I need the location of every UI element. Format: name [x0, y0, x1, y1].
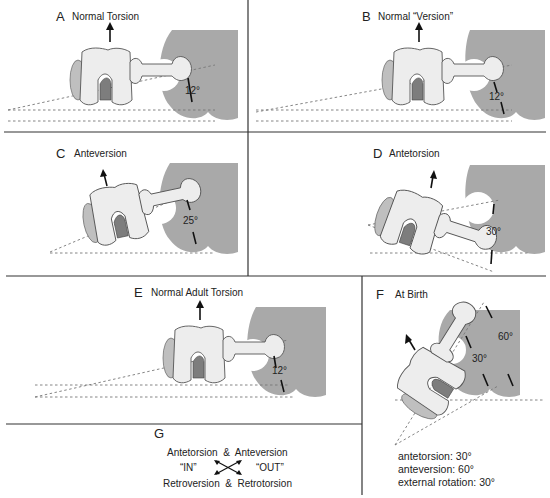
panel-c: C Anteversion 25°: [50, 146, 238, 254]
panel-f-note: anteversion: 60°: [398, 463, 474, 475]
panel-d-letter: D: [373, 146, 382, 161]
panel-a-letter: A: [56, 9, 65, 24]
panel-f-note: antetorsion: 30°: [398, 450, 472, 462]
panel-d-title: Antetorsion: [389, 148, 440, 159]
legend-in: “IN”: [180, 462, 197, 473]
panel-c-title: Anteversion: [74, 148, 127, 159]
panel-e-angle: 12°: [272, 365, 287, 376]
legend-bottom: Retroversion & Retrotorsion: [163, 478, 292, 489]
panel-c-angle: 25°: [183, 215, 198, 226]
panel-f: F At Birth 60° 30° antetorsion: 30° ante…: [376, 287, 545, 488]
panel-a-angle: 12°: [185, 85, 200, 96]
femoral-torsion-figure: A Normal Torsion 12° B Normal “Version” …: [0, 0, 550, 498]
angle-arrow-icon: [491, 250, 492, 264]
acetabulum: [462, 192, 494, 224]
panel-e: E Normal Adult Torsion 12°: [35, 285, 326, 397]
arrowhead-icon: [430, 170, 437, 179]
panel-b-angle: 12°: [489, 91, 504, 102]
legend-out: “OUT”: [256, 462, 284, 473]
panel-b: B Normal “Version” 12°: [256, 9, 545, 121]
panel-d-angle: 30°: [486, 226, 501, 237]
direction-arrow-icon: [409, 340, 415, 350]
arrowhead-icon: [196, 300, 204, 308]
panel-f-angle-outer: 60°: [498, 331, 513, 342]
panel-a-title: Normal Torsion: [72, 11, 139, 22]
panel-b-title: Normal “Version”: [378, 11, 453, 22]
arrowhead-icon: [415, 22, 423, 30]
panel-g: G Antetorsion & Anteversion “IN” “OUT” R…: [154, 426, 292, 489]
arrowhead-icon: [106, 22, 114, 30]
panel-a: A Normal Torsion 12°: [8, 9, 238, 121]
panel-b-letter: B: [362, 9, 371, 24]
panel-c-letter: C: [56, 146, 65, 161]
arrowhead-icon: [100, 169, 107, 177]
cross-arrows-icon: [214, 460, 242, 475]
panel-f-letter: F: [376, 287, 384, 302]
panel-f-note: external rotation: 30°: [398, 476, 495, 488]
legend-top: Antetorsion & Anteversion: [167, 447, 288, 458]
panel-g-letter: G: [154, 426, 164, 441]
panel-d: D Antetorsion 30°: [368, 146, 545, 275]
panel-e-letter: E: [134, 285, 143, 300]
angle-arrow-icon: [493, 204, 494, 214]
panel-e-title: Normal Adult Torsion: [151, 287, 243, 298]
panel-f-title: At Birth: [395, 289, 428, 300]
panel-f-angle-inner: 30°: [472, 353, 487, 364]
